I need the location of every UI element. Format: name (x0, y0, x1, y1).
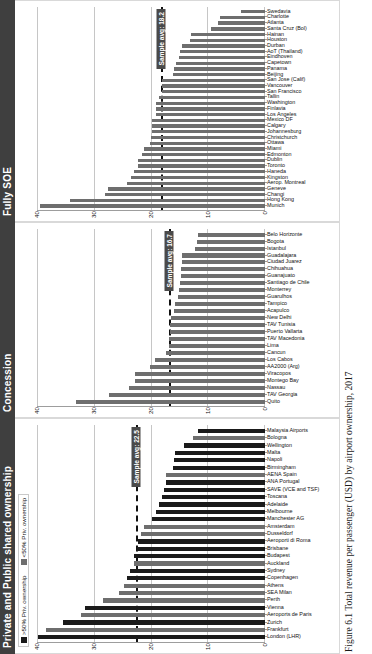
category-item: Montego Bay (265, 377, 339, 384)
category-label: Aerop. Montreal (267, 181, 305, 186)
category-item: San Francisco (265, 89, 339, 95)
category-label: Tallin (267, 95, 279, 100)
category-label: Copenhagen (267, 576, 298, 581)
bar-item (37, 398, 265, 405)
y-axis-tick-label: 40 (34, 211, 40, 220)
bar (144, 147, 265, 150)
category-label: Melbourne (267, 509, 292, 514)
y-axis-tick-label: 20 (148, 643, 154, 652)
category-label: Malta (267, 450, 280, 455)
bar (180, 50, 265, 53)
bar-item (37, 203, 265, 209)
category-item: Guanajuato (265, 273, 339, 280)
bar-item (37, 449, 265, 456)
legend-item-minor-private: <50% Priv. ownership (20, 498, 27, 566)
panel-row: Private and Public shared ownership >50%… (0, 0, 340, 654)
category-label: Frankfurt (267, 627, 289, 632)
bar (130, 569, 265, 573)
plot-area-concession: Sample avg: 16.7 (37, 229, 265, 407)
bar-item (37, 486, 265, 493)
category-label: Adelaide (267, 502, 288, 507)
bar-item (37, 106, 265, 112)
bar-item (37, 280, 265, 287)
bar (156, 113, 265, 116)
bar-item (37, 619, 265, 626)
category-item: Bologna (265, 435, 339, 442)
category-label: Wellington (267, 443, 292, 448)
category-label: Malaysia Airports (267, 428, 308, 433)
bar (137, 547, 265, 551)
bar (220, 16, 265, 19)
category-item: Ottawa (265, 140, 339, 146)
bar-item (37, 342, 265, 349)
category-item: AENA Spain (265, 471, 339, 478)
category-label: SEA Milan (267, 590, 292, 595)
bar-item (37, 129, 265, 135)
category-label: Haneda (267, 169, 286, 174)
bar (134, 554, 265, 558)
bar-item (37, 55, 265, 61)
y-axis-tick-label: 0 (262, 643, 268, 652)
legend-item-major-private: >50% Priv. ownership (20, 575, 27, 643)
category-item: Dusseldorf (265, 530, 339, 537)
bar-item (37, 287, 265, 294)
bar (138, 164, 265, 167)
bar (170, 330, 265, 334)
category-item: Bogota (265, 238, 339, 245)
bar (166, 351, 265, 355)
category-item: Zurich (265, 619, 339, 626)
category-label: AENA Spain (267, 472, 297, 477)
category-label: Toscana (267, 494, 287, 499)
category-label: Swedavia (267, 9, 290, 14)
bar (174, 67, 265, 70)
bar (103, 598, 265, 602)
panel-body-private: >50% Priv. ownership <50% Priv. ownershi… (15, 418, 340, 654)
category-item: Santiago de Chile (265, 280, 339, 287)
category-labels-soe: MunichHong KongChangiGeneveAerop. Montre… (265, 7, 339, 211)
category-label: Montego Bay (267, 378, 299, 383)
rotated-page-stage: Private and Public shared ownership >50%… (0, 0, 372, 654)
bar (178, 295, 265, 299)
bar-item (37, 15, 265, 21)
category-label: Sydney (267, 568, 285, 573)
bar-item (37, 349, 265, 356)
bar (162, 84, 265, 87)
bar (174, 458, 265, 462)
category-item: Belo Horizonte (265, 231, 339, 238)
category-item: Acapulco (265, 308, 339, 315)
bar-item (37, 169, 265, 175)
category-label: Vancouver (267, 83, 292, 88)
bar (134, 170, 265, 173)
bar-item (37, 37, 265, 43)
bar-item (37, 322, 265, 329)
category-label: Guadalajara (267, 253, 296, 258)
category-item: Birmingham (265, 464, 339, 471)
legend-label-major-private: >50% Priv. ownership (20, 575, 27, 635)
category-item: Istanbul (265, 245, 339, 252)
category-label: Calgary (267, 123, 286, 128)
category-label: Aeroporti di Roma (267, 539, 310, 544)
y-axis-tick-label: 30 (91, 643, 97, 652)
category-label: Brisbane (267, 546, 288, 551)
category-label: Amsterdam (267, 524, 295, 529)
bar-item (37, 135, 265, 141)
bar-item (37, 538, 265, 545)
bar-item (37, 60, 265, 66)
bar (197, 240, 265, 244)
category-item: Amsterdam (265, 523, 339, 530)
bar (180, 281, 266, 285)
bar (129, 386, 265, 390)
bar (218, 21, 265, 24)
category-item: Vienna (265, 604, 339, 611)
bar (162, 495, 265, 499)
bar-item (37, 140, 265, 146)
category-label: Miami (267, 146, 281, 151)
category-item: Cancun (265, 349, 339, 356)
category-item: Puerto Vallarta (265, 329, 339, 336)
category-label: Bologna (267, 435, 287, 440)
bar-item (37, 634, 265, 641)
category-label: Belo Horizonte (267, 232, 302, 237)
bar (127, 576, 265, 580)
y-axis-tick-label: 10 (205, 643, 211, 652)
bar-item (37, 83, 265, 89)
